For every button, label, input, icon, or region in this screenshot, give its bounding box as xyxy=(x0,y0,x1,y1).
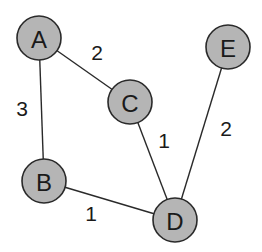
node-e: E xyxy=(206,25,250,69)
node-d: D xyxy=(153,198,197,242)
node-a: A xyxy=(17,16,61,60)
graph-diagram: 23121 ABCDE xyxy=(0,0,262,252)
edge-weight-e-d: 2 xyxy=(220,117,232,140)
node-label-a: A xyxy=(31,26,47,53)
edge-weight-b-d: 1 xyxy=(85,202,97,225)
node-b: B xyxy=(22,159,66,203)
node-label-e: E xyxy=(220,35,236,62)
edge-weight-a-c: 2 xyxy=(91,41,103,64)
node-c: C xyxy=(108,80,152,124)
node-label-c: C xyxy=(121,90,138,117)
node-label-d: D xyxy=(166,208,183,235)
node-label-b: B xyxy=(36,169,52,196)
edge-weight-c-d: 1 xyxy=(158,129,170,152)
edges-layer xyxy=(39,38,228,220)
edge-weight-a-b: 3 xyxy=(16,97,28,120)
